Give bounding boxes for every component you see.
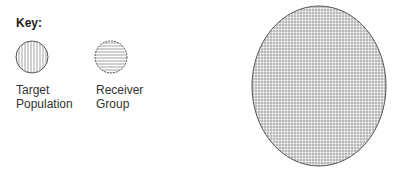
target-population-label: Target Population xyxy=(16,83,73,111)
receiver-group-symbol xyxy=(95,41,127,73)
label-line: Target xyxy=(16,83,73,97)
label-line: Receiver xyxy=(96,83,143,97)
receiver-group-label: Receiver Group xyxy=(96,83,143,111)
population-ellipse xyxy=(252,6,386,166)
label-line: Group xyxy=(96,97,143,111)
target-population-symbol xyxy=(16,41,48,73)
label-line: Population xyxy=(16,97,73,111)
